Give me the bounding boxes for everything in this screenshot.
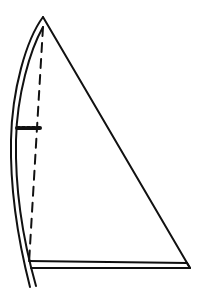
leech-line [43, 17, 190, 268]
mast-inner-line [16, 27, 43, 286]
boom-top-line [29, 261, 187, 263]
sail-diagram [0, 0, 203, 299]
luff-dashed-line [29, 27, 43, 263]
sail-drawing [0, 0, 203, 299]
